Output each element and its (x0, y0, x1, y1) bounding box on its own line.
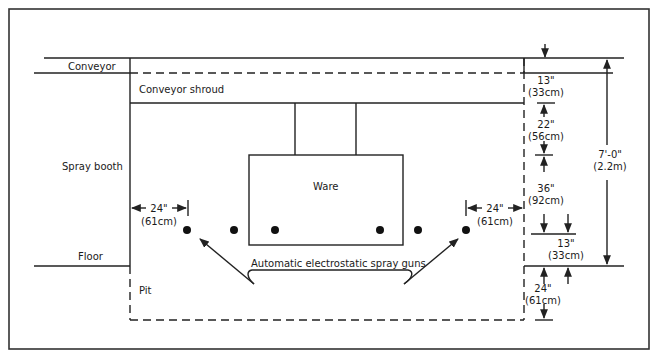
spray-gun-dot (230, 226, 238, 234)
spray-gun-dot (271, 226, 279, 234)
spray-gun-dot (376, 226, 384, 234)
dim-left-gun-metric: (61cm) (141, 216, 177, 227)
label-conveyor-shroud: Conveyor shroud (139, 84, 224, 95)
spray-guns (183, 226, 470, 234)
dim-pit-metric: (61cm) (525, 295, 561, 306)
dim-ware-imperial: 36" (537, 183, 554, 194)
dim-pit-imperial: 24" (534, 283, 551, 294)
dim-conveyor-metric: (33cm) (528, 87, 564, 98)
dim-gun-floor-imperial: 13" (557, 238, 574, 249)
spray-gun-dot (183, 226, 191, 234)
label-ware: Ware (313, 181, 338, 192)
dim-left-gun-imperial: 24" (150, 203, 167, 214)
label-spray-booth: Spray booth (62, 161, 123, 172)
dim-right-gun-imperial: 24" (486, 203, 503, 214)
dim-right-gun-metric: (61cm) (477, 216, 513, 227)
spray-gun-dot (462, 226, 470, 234)
dim-total-metric: (2.2m) (593, 161, 627, 172)
label-conveyor: Conveyor (68, 61, 117, 72)
spray-gun-dot (414, 226, 422, 234)
dim-total-imperial: 7'-0" (598, 149, 622, 160)
label-floor: Floor (78, 251, 104, 262)
dim-conveyor-imperial: 13" (537, 75, 554, 86)
dim-ware-metric: (92cm) (528, 195, 564, 206)
dim-shroud-imperial: 22" (537, 119, 554, 130)
callout-brace (248, 270, 412, 284)
spray-booth-diagram: Conveyor Conveyor shroud Spray booth War… (0, 0, 659, 359)
dim-gun-floor-metric: (33cm) (548, 250, 584, 261)
callout-arrow-left (200, 239, 254, 284)
label-spray-guns: Automatic electrostatic spray guns (251, 258, 426, 269)
dim-shroud-metric: (56cm) (528, 131, 564, 142)
label-pit: Pit (139, 285, 152, 296)
